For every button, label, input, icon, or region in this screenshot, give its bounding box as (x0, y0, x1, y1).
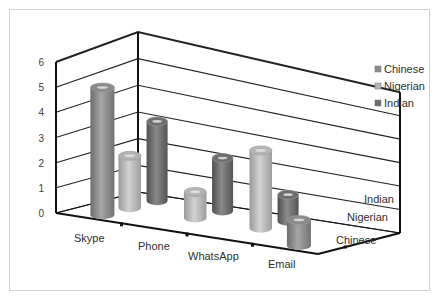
depth-axis-label: Indian (364, 193, 394, 205)
y-tick-label: 4 (38, 107, 44, 118)
chart-bars (90, 83, 311, 250)
legend-item-chinese: Chinese (375, 63, 424, 75)
3d-cylinder-chart: 0123456 SkypePhoneWhatsAppEmailChineseNi… (0, 0, 437, 303)
depth-axis-label: Chinese (336, 234, 376, 246)
bar-skype-indian (147, 117, 168, 205)
bar-skype-chinese (90, 83, 114, 219)
legend: ChineseNigerianIndian (375, 63, 425, 109)
y-tick-label: 0 (38, 208, 44, 219)
bar-phone-indian (212, 154, 233, 216)
y-tick-label: 2 (38, 158, 44, 169)
bar-whatsapp-nigerian (250, 146, 273, 233)
legend-swatch-icon (375, 66, 381, 72)
legend-swatch-icon (375, 83, 381, 89)
bar-skype-nigerian (119, 151, 142, 212)
bar-email-chinese (287, 215, 311, 249)
legend-label: Nigerian (384, 80, 425, 92)
y-tick-label: 6 (38, 57, 44, 68)
x-category-label: WhatsApp (188, 250, 239, 262)
x-category-label: Phone (138, 240, 170, 252)
bar-phone-nigerian (184, 187, 207, 222)
legend-item-nigerian: Nigerian (375, 80, 425, 92)
y-tick-label: 1 (38, 183, 44, 194)
y-tick-label: 5 (38, 82, 44, 93)
x-category-label: Skype (74, 232, 105, 244)
y-tick-label: 3 (38, 133, 44, 144)
x-category-label: Email (268, 258, 296, 270)
legend-label: Chinese (384, 63, 424, 75)
legend-swatch-icon (375, 100, 381, 106)
legend-item-indian: Indian (375, 97, 414, 109)
depth-axis-label: Nigerian (347, 211, 388, 223)
legend-label: Indian (384, 97, 414, 109)
